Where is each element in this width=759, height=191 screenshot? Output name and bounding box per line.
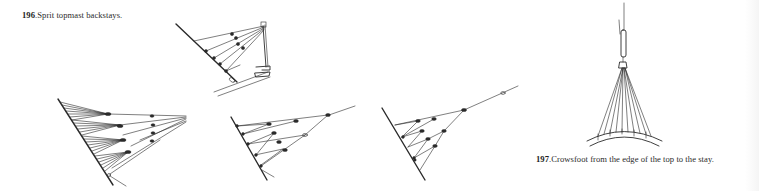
crowsfoot-euphroes-drawing [231, 106, 355, 180]
book-page: 196.Sprit topmast backstays. 197.Crowsfo… [0, 0, 759, 191]
illustration-plate [0, 0, 759, 191]
page-edge-shadow [745, 0, 759, 191]
crowsfoot-top-to-stay-drawing [587, 3, 662, 146]
crowsfoot-many-legs-drawing [58, 99, 186, 186]
crowsfoot-single-pendant-drawing [382, 86, 518, 180]
sprit-topmast-backstay-drawing [176, 22, 270, 96]
